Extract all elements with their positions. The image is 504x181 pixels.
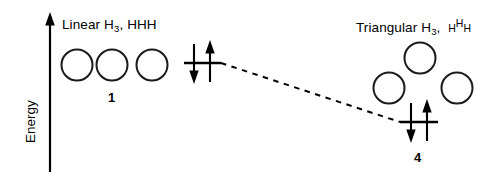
arrow-head [205, 40, 214, 54]
triangular-h3-title-prefix: Triangular [356, 20, 417, 35]
triangular-h3-connectivity-right: H [464, 22, 472, 34]
linear-h3-formula-element: H [104, 17, 114, 32]
triangular-h3-connectivity-left: H [448, 22, 456, 34]
state-number-linear: 1 [108, 91, 115, 104]
energy-level-diagram: Energy Linear H3, HHH Triangular H3, HHH… [0, 0, 504, 181]
arrow-head [406, 130, 415, 144]
triangular-h3-formula-element: H [421, 20, 431, 35]
triangular-h3-connectivity-top: H [456, 17, 464, 29]
linear-h3-title-prefix: Linear [62, 17, 100, 32]
linear-h3-title: Linear H3, HHH [62, 18, 157, 33]
linear-h3-connectivity: HHH [127, 17, 157, 32]
arrow-head [189, 71, 198, 85]
electron-spin-up-arrow-icon [422, 99, 431, 141]
atom-circle [374, 73, 405, 104]
atom-circle [97, 50, 128, 81]
atom-circle [62, 50, 93, 81]
triangular-h3-title: Triangular H3, HHH [356, 18, 471, 36]
atom-circle [442, 73, 473, 104]
triangular-h3-energy-level [400, 99, 438, 143]
state-number-triangular: 4 [414, 151, 421, 164]
arrow-head [422, 99, 431, 113]
linear-h3-atoms [62, 50, 168, 81]
linear-h3-energy-level [184, 40, 221, 84]
energy-axis-label: Energy [24, 100, 38, 143]
atom-circle [405, 43, 436, 74]
atom-circle [137, 50, 168, 81]
electron-spin-up-arrow-icon [205, 40, 214, 82]
energy-axis [45, 12, 55, 172]
energy-axis-arrowhead-icon [45, 12, 55, 26]
triangular-h3-atoms [374, 43, 473, 104]
